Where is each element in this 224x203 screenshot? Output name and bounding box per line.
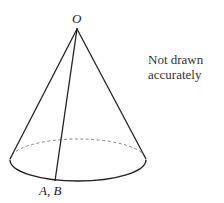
cone-diagram bbox=[0, 0, 224, 203]
base-ellipse-back-dashed bbox=[10, 139, 146, 160]
note-line-1: Not drawn bbox=[148, 52, 203, 67]
base-point-label: A, B bbox=[39, 184, 61, 198]
apex-label: O bbox=[72, 12, 81, 26]
slant-line-oab bbox=[55, 29, 77, 181]
base-ellipse-front bbox=[10, 160, 146, 181]
note-line-2: accurately bbox=[148, 67, 203, 82]
apex-point bbox=[76, 28, 78, 30]
not-drawn-accurately-note: Not drawn accurately bbox=[148, 52, 203, 82]
